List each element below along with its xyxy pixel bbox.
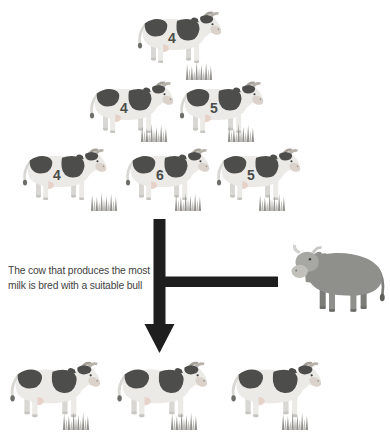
grass-icon	[259, 193, 285, 211]
milk-yield-number: 4	[53, 167, 61, 183]
grass-icon	[171, 412, 197, 430]
cow-icon	[138, 12, 223, 64]
selective-breeding-diagram: 4 4 5 4 6 5 The cow that produces the mo…	[0, 0, 390, 435]
caption: The cow that produces the most milk is b…	[8, 265, 150, 291]
milk-yield-number: 4	[120, 100, 128, 116]
offspring-cow-icon	[10, 362, 102, 418]
cow-icon	[90, 82, 175, 134]
cow-icon	[126, 149, 211, 201]
offspring-row	[10, 362, 323, 430]
milk-yield-number: 5	[210, 100, 218, 116]
grass-icon	[141, 124, 167, 142]
cow-icon	[217, 149, 302, 201]
diagram-svg: 4 4 5 4 6 5 The cow that produces the mo…	[0, 0, 390, 435]
bull-icon	[292, 244, 385, 311]
offspring-cow-icon	[231, 362, 323, 418]
grass-icon	[91, 193, 117, 211]
herd-row-3: 4 6 5	[23, 149, 302, 211]
cow-icon	[23, 149, 108, 201]
offspring-cow-icon	[117, 362, 209, 418]
branch-connector-line	[165, 277, 278, 288]
milk-yield-number: 5	[247, 167, 255, 183]
herd-row-1: 4	[138, 12, 223, 80]
milk-yield-number: 4	[168, 30, 176, 46]
caption-line-1: The cow that produces the most	[8, 265, 150, 276]
milk-yield-number: 6	[156, 167, 164, 183]
grass-icon	[186, 62, 212, 80]
cow-icon	[180, 82, 265, 134]
arrow-down-icon	[145, 219, 279, 353]
caption-line-2: milk is bred with a suitable bull	[8, 280, 142, 291]
herd-row-2: 4 5	[90, 82, 265, 142]
